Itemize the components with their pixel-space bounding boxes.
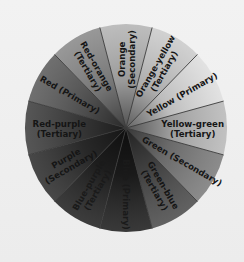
wedge-label-name: Red-purple (33, 119, 87, 129)
wedge-label: Blue (Primary) (121, 159, 131, 229)
wedge-label: Yellow-green(Tertiary) (160, 119, 224, 139)
wedge-label: Red-purple(Tertiary) (33, 119, 87, 139)
wedge-label-name: Yellow-green (160, 119, 224, 129)
color-wheel: Orange(Secondary)Orange-yellow(Tertiary)… (0, 0, 244, 262)
wedge-label-type: (Tertiary) (170, 129, 215, 139)
wedge-label-name: Blue (Primary) (121, 159, 131, 229)
color-wheel-figure: Orange(Secondary)Orange-yellow(Tertiary)… (0, 0, 244, 262)
wedge-label-type: (Tertiary) (37, 129, 82, 139)
wedge-label-type: (Secondary) (127, 30, 137, 89)
wedge-label-name: Orange (117, 41, 127, 77)
